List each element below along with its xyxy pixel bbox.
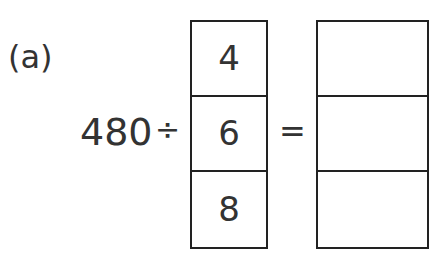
answer-box[interactable]: [318, 22, 427, 97]
answer-column: [316, 20, 429, 249]
answer-box[interactable]: [318, 97, 427, 172]
divisor-cell: 4: [192, 22, 266, 97]
divisor-cell: 8: [192, 172, 266, 247]
equals-sign: =: [279, 112, 306, 150]
answer-box[interactable]: [318, 172, 427, 247]
divisor-cell: 6: [192, 97, 266, 172]
dividend: 480: [80, 110, 153, 154]
divisor-column: 4 6 8: [190, 20, 268, 249]
problem-label: (a): [8, 38, 53, 76]
division-sign: ÷: [155, 112, 180, 147]
